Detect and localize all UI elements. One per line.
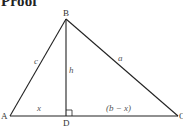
right-angle-marker (66, 110, 72, 116)
segment-label-x: x (36, 103, 41, 113)
vertex-label-a: A (1, 111, 8, 121)
vertex-label-b: B (63, 8, 69, 18)
side-ab (10, 19, 66, 116)
triangle-abc (10, 19, 178, 116)
altitude-label-h: h (69, 65, 74, 75)
side-label-a: a (118, 53, 123, 63)
side-bc (66, 19, 178, 116)
vertex-label-d: D (63, 118, 70, 128)
side-label-c: c (34, 56, 38, 66)
triangle-diagram: A B C D c a h x (b − x) (0, 0, 183, 128)
vertex-label-c: C (179, 111, 183, 121)
segment-label-b-minus-x: (b − x) (106, 103, 131, 113)
